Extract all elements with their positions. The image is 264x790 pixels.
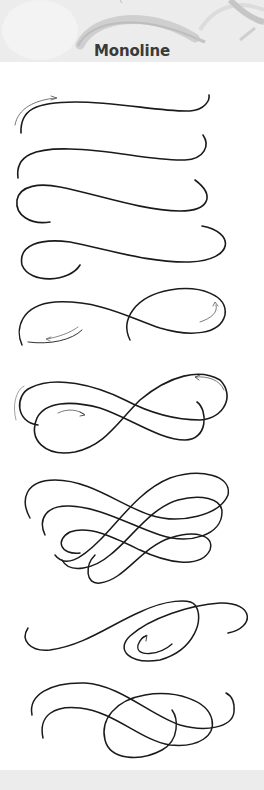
page-footer	[0, 770, 264, 790]
flourish-3	[17, 180, 207, 223]
flourish-illustration	[0, 62, 264, 770]
page-header: Monoline	[0, 0, 264, 62]
direction-arrow-icon	[47, 327, 78, 339]
flourish-8	[25, 601, 247, 661]
flourish-6	[14, 374, 227, 453]
direction-arrow-icon	[200, 305, 216, 322]
flourish-2	[18, 135, 206, 178]
flourish-9	[32, 683, 235, 757]
direction-arrow-icon	[15, 98, 56, 125]
page-title: Monoline	[0, 42, 264, 60]
flourish-4	[22, 226, 226, 279]
direction-arrow-icon	[196, 377, 224, 390]
flourish-1	[15, 95, 209, 133]
flourish-7	[25, 473, 228, 583]
flourish-5	[19, 289, 225, 345]
